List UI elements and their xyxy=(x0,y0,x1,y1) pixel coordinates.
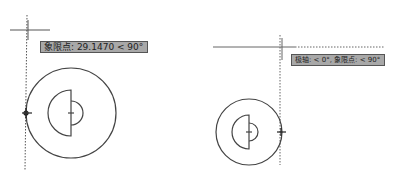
left-tracking-lines xyxy=(10,15,50,170)
drawing-canvas[interactable] xyxy=(0,0,396,182)
right-quadrant-marker-icon xyxy=(277,128,286,136)
left-snap-tooltip: 象限点: 29.1470 < 90° xyxy=(40,41,148,53)
right-snap-tooltip: 极轴: < 0°, 象限点: < 90° xyxy=(291,54,385,66)
right-circle-drawing xyxy=(216,99,282,165)
left-circle-drawing xyxy=(26,68,116,158)
left-quadrant-marker-icon xyxy=(22,108,32,118)
